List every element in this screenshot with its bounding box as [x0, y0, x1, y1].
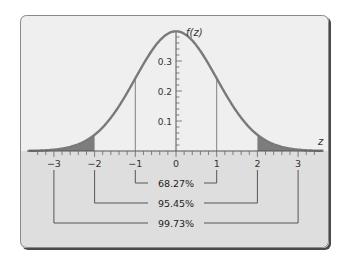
x-axis-label: z — [317, 136, 324, 147]
y-tick-label: 0.1 — [158, 117, 172, 127]
interval-label: 95.45% — [158, 198, 194, 209]
y-tick-label: 0.3 — [158, 57, 172, 67]
x-tick-label: −3 — [47, 158, 61, 169]
interval-label: 99.73% — [158, 218, 194, 229]
x-tick-label: 3 — [295, 158, 301, 169]
x-tick-label: −2 — [88, 158, 102, 169]
x-tick-label: 1 — [214, 158, 220, 169]
interval-label: 68.27% — [158, 178, 194, 189]
x-tick-label: 0 — [173, 158, 179, 169]
x-tick-label: 2 — [254, 158, 260, 169]
normal-distribution-chart: 0.10.20.3−3−2−10123f(z)z68.27%95.45%99.7… — [0, 0, 347, 259]
x-tick-label: −1 — [128, 158, 142, 169]
y-tick-label: 0.2 — [158, 87, 172, 97]
y-axis-label: f(z) — [186, 27, 203, 38]
